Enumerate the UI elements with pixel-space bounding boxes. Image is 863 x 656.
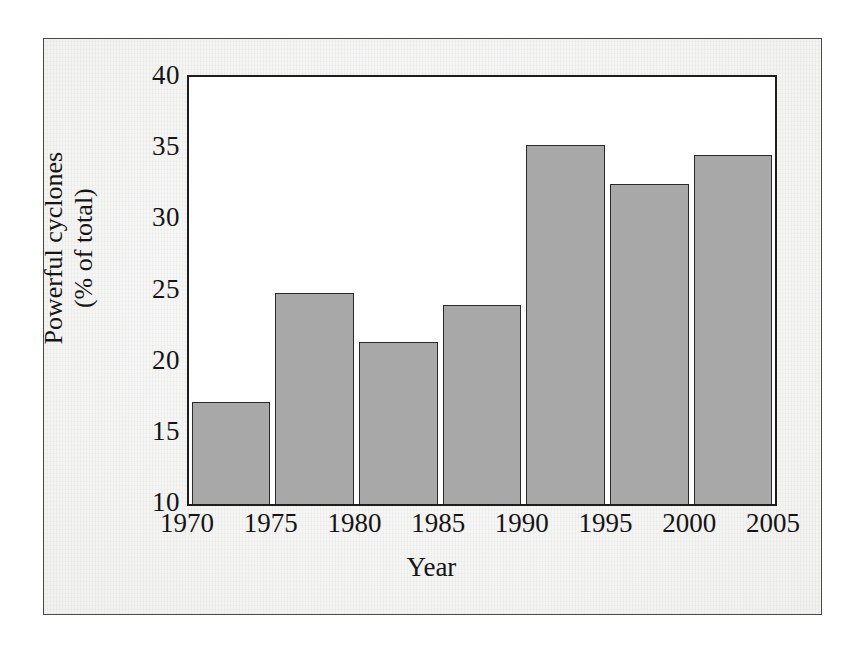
y-axis-title: Powerful cyclones (% of total) [39, 83, 99, 413]
bar-1970 [192, 402, 271, 504]
x-axis-tick-label: 1970 [160, 508, 214, 539]
y-axis-tick-label: 25 [152, 273, 180, 304]
y-axis-tick-label: 30 [152, 202, 180, 233]
y-axis-title-line2: (% of total) [69, 83, 99, 413]
y-axis-tick-label: 20 [152, 344, 180, 375]
x-axis-tick-label: 2000 [662, 508, 716, 539]
figure-root: Powerful cyclones (% of total) 403530252… [0, 0, 863, 656]
bar-1990 [526, 145, 605, 504]
x-axis-tick-label: 2005 [746, 508, 800, 539]
x-axis-tick-label: 1990 [495, 508, 549, 539]
y-axis-tick-labels: 40353025201510 [120, 75, 180, 502]
x-axis-tick-labels: 19701975198019851990199520002005 [0, 508, 863, 544]
x-axis-tick-label: 1995 [579, 508, 633, 539]
x-axis-title: Year [0, 552, 863, 583]
x-axis-tick-label: 1975 [244, 508, 298, 539]
bar-2000 [694, 155, 773, 504]
bar-1975 [275, 293, 354, 504]
bars-layer [189, 77, 775, 504]
y-axis-tick-label: 15 [152, 415, 180, 446]
bar-1995 [610, 184, 689, 504]
bar-1980 [359, 342, 438, 504]
y-axis-tick-label: 35 [152, 131, 180, 162]
bar-1985 [443, 305, 522, 504]
x-axis-tick-label: 1980 [327, 508, 381, 539]
x-axis-tick-label: 1985 [411, 508, 465, 539]
plot-area [187, 75, 777, 506]
y-axis-title-line1: Powerful cyclones [39, 83, 69, 413]
y-axis-tick-label: 40 [152, 60, 180, 91]
